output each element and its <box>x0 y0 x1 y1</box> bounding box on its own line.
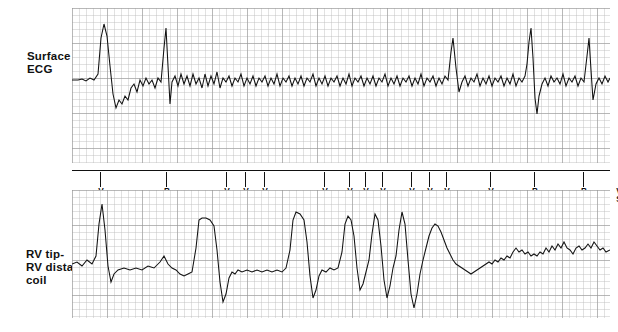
marker-tick <box>324 172 325 187</box>
marker-tick <box>245 172 246 187</box>
marker-tick <box>226 172 227 187</box>
marker-tick <box>100 172 101 187</box>
channel-divider <box>72 170 610 171</box>
surface-ecg-panel <box>72 8 610 163</box>
marker-tick <box>490 172 491 187</box>
marker-tick <box>534 172 535 187</box>
marker-tick <box>382 172 383 187</box>
marker-tick <box>264 172 265 187</box>
ecg-recording-strip: Surface ECG RV tip- RV distal coil V SB … <box>0 0 618 332</box>
surface-ecg-trace <box>72 8 610 163</box>
marker-tick <box>446 172 447 187</box>
marker-tick <box>429 172 430 187</box>
marker-tick <box>365 172 366 187</box>
marker-tick <box>349 172 350 187</box>
rv-electrogram-panel <box>72 190 610 318</box>
marker-tick <box>166 172 167 187</box>
marker-tick <box>583 172 584 187</box>
marker-tick <box>411 172 412 187</box>
rv-electrogram-trace <box>72 190 610 318</box>
